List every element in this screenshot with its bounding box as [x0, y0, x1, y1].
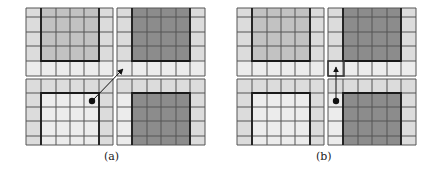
grid-cell — [281, 17, 295, 32]
grid-cell — [147, 46, 161, 61]
grid-cell — [343, 61, 358, 76]
grid-cell — [295, 93, 310, 107]
grid-cell — [70, 32, 84, 46]
grid-cell — [56, 32, 70, 46]
grid-cell — [372, 93, 387, 107]
grid-cell — [84, 17, 99, 32]
grid-cell — [190, 121, 205, 136]
grid-cell — [281, 61, 295, 76]
grid-cell — [401, 46, 416, 61]
grid-cell — [176, 107, 190, 121]
grid-cell — [70, 61, 84, 76]
grid-cell — [70, 136, 84, 145]
grid-cell — [147, 136, 161, 145]
grid-cell — [237, 17, 252, 32]
grid-cell — [41, 136, 56, 145]
grid-cell — [252, 17, 267, 32]
grid-cell — [372, 121, 387, 136]
grid-cell — [190, 93, 205, 107]
grid-cell — [56, 8, 70, 17]
grid-cell — [41, 17, 56, 32]
source-point-dot — [89, 98, 95, 104]
grid-cell — [237, 93, 252, 107]
grid-cell — [295, 107, 310, 121]
grid-cell — [372, 79, 387, 93]
grid-cell — [267, 32, 281, 46]
grid-cell — [372, 8, 387, 17]
grid-cell — [343, 46, 358, 61]
grid-cell — [358, 136, 372, 145]
grid-cell — [26, 93, 41, 107]
grid-cell — [161, 46, 176, 61]
grid-cell — [99, 46, 113, 61]
grid-cell — [343, 107, 358, 121]
grid-cell — [281, 136, 295, 145]
grid-cell — [147, 17, 161, 32]
grid-cell — [310, 32, 324, 46]
grid-cell — [56, 46, 70, 61]
grid-cell — [387, 46, 401, 61]
grid-cell — [237, 61, 252, 76]
grid-cell — [295, 8, 310, 17]
grid-cell — [252, 61, 267, 76]
grid-cell — [26, 121, 41, 136]
grid-cell — [26, 61, 41, 76]
grid-cell — [310, 17, 324, 32]
grid-cell — [372, 136, 387, 145]
grid-cell — [328, 17, 343, 32]
grid-cell — [132, 93, 147, 107]
grid-cell — [176, 8, 190, 17]
grid-cell — [84, 136, 99, 145]
grid-cell — [99, 8, 113, 17]
grid-cell — [252, 46, 267, 61]
grid-cell — [132, 8, 147, 17]
grid-cell — [401, 93, 416, 107]
grid-cell — [358, 46, 372, 61]
grid-cell — [161, 17, 176, 32]
grid-cell — [84, 107, 99, 121]
grid-cell — [117, 8, 132, 17]
grid-cell — [387, 136, 401, 145]
grid-cell — [267, 46, 281, 61]
grid-cell — [401, 8, 416, 17]
grid-cell — [161, 136, 176, 145]
grid-cell — [176, 79, 190, 93]
grid-cell — [147, 61, 161, 76]
grid-cell — [281, 46, 295, 61]
grid-cell — [252, 8, 267, 17]
grid-cell — [190, 61, 205, 76]
grid-cell — [267, 17, 281, 32]
grid-cell — [147, 121, 161, 136]
grid-cell — [343, 8, 358, 17]
grid-cell — [358, 107, 372, 121]
grid-cell — [190, 46, 205, 61]
grid-cell — [295, 61, 310, 76]
grid-cell — [358, 93, 372, 107]
grid-cell — [70, 79, 84, 93]
grid-cell — [387, 93, 401, 107]
grid-cell — [387, 107, 401, 121]
grid-cell — [41, 121, 56, 136]
grid-cell — [132, 17, 147, 32]
grid-cell — [190, 17, 205, 32]
grid-cell — [99, 93, 113, 107]
grid-cell — [56, 136, 70, 145]
grid-cell — [176, 93, 190, 107]
grid-cell — [161, 121, 176, 136]
grid-cell — [117, 17, 132, 32]
grid-cell — [358, 32, 372, 46]
grid-cell — [132, 136, 147, 145]
grid-cell — [401, 79, 416, 93]
grid-cell — [84, 79, 99, 93]
grid-cell — [176, 17, 190, 32]
grid-cell — [387, 61, 401, 76]
grid-cell — [117, 107, 132, 121]
grid-cell — [237, 107, 252, 121]
grid-cell — [237, 8, 252, 17]
grid-cell — [358, 121, 372, 136]
grid-diagram — [0, 0, 440, 171]
grid-cell — [252, 136, 267, 145]
grid-cell — [56, 107, 70, 121]
caption-a: (a) — [104, 150, 119, 163]
grid-cell — [41, 79, 56, 93]
